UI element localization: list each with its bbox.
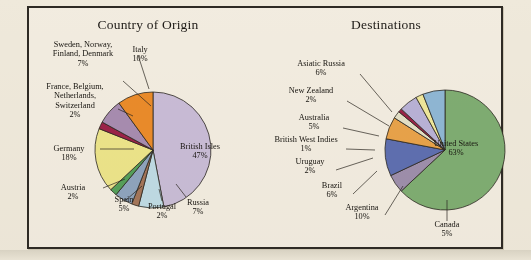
label-canada: Canada 5% bbox=[419, 220, 475, 239]
label-asiatic-russia: Asiatic Russia 6% bbox=[279, 59, 363, 78]
label-italy: Italy 10% bbox=[121, 45, 159, 64]
label-uruguay: Uruguay 2% bbox=[283, 157, 337, 176]
leader-line-asiatic-russia bbox=[360, 74, 392, 112]
figure-root: Country of Origin Sweden, Norway, Finlan… bbox=[0, 0, 531, 260]
leader-line-brazil bbox=[353, 171, 377, 194]
label-british-isles: British Isles 47% bbox=[167, 142, 233, 161]
label-austria: Austria 2% bbox=[46, 183, 100, 202]
leader-line-bwi bbox=[346, 149, 375, 150]
page-edge-shadow bbox=[0, 250, 531, 260]
label-australia: Australia 5% bbox=[285, 113, 343, 132]
label-british-west-indies: British West Indies 1% bbox=[265, 135, 347, 154]
leader-line-uruguay bbox=[336, 158, 373, 170]
leader-line-new-zealand bbox=[347, 101, 389, 126]
label-france-belgium-netherlands-switzerland: France, Belgium, Netherlands, Switzerlan… bbox=[29, 82, 121, 120]
chart-panel-country-of-origin: Country of Origin Sweden, Norway, Finlan… bbox=[29, 8, 267, 251]
label-germany: Germany 18% bbox=[41, 144, 97, 163]
chart-panel-destinations: Destinations Asiatic Russia 6% New Zeala… bbox=[267, 8, 505, 251]
label-united-states: United States 63% bbox=[418, 139, 494, 158]
figure-frame: Country of Origin Sweden, Norway, Finlan… bbox=[27, 6, 503, 249]
label-russia: Russia 7% bbox=[177, 198, 219, 217]
label-argentina: Argentina 10% bbox=[333, 203, 391, 222]
label-scandinavia: Sweden, Norway, Finland, Denmark 7% bbox=[31, 40, 135, 68]
leader-line-australia bbox=[343, 128, 379, 136]
label-brazil: Brazil 6% bbox=[309, 181, 355, 200]
label-new-zealand: New Zealand 2% bbox=[273, 86, 349, 105]
